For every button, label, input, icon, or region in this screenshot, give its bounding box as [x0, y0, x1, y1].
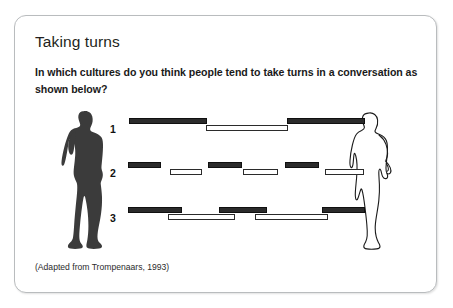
speech-bar-dark [285, 162, 319, 168]
speech-bar-light [168, 214, 235, 220]
row-1-label: 1 [110, 124, 116, 135]
content-card: Taking turns In which cultures do you th… [14, 15, 437, 293]
speech-bar-dark [219, 207, 267, 213]
speech-bar-light [325, 169, 364, 175]
turn-pattern-row-1: 1 [15, 116, 438, 140]
turn-pattern-row-3: 3 [15, 205, 438, 229]
slide-canvas: Taking turns In which cultures do you th… [0, 0, 453, 308]
speech-bar-dark [287, 118, 365, 124]
speech-bar-dark [129, 118, 207, 124]
row-2-label: 2 [110, 168, 116, 179]
silhouette-man-filled-icon [61, 109, 109, 253]
silhouette-person-outline-icon [349, 111, 397, 253]
source-attribution: (Adapted from Trompenaars, 1993) [35, 262, 169, 272]
speech-bar-light [255, 214, 328, 220]
speech-bar-dark [128, 162, 161, 168]
row-3-label: 3 [110, 213, 116, 224]
speech-bar-light [170, 169, 202, 175]
turn-pattern-row-2: 2 [15, 160, 438, 184]
speech-bar-light [206, 125, 288, 131]
question-text: In which cultures do you think people te… [35, 64, 427, 98]
turn-taking-diagram: 1 2 3 [15, 16, 438, 294]
page-title: Taking turns [35, 33, 120, 51]
speech-bar-dark [322, 207, 365, 213]
speech-bar-dark [128, 207, 182, 213]
speech-bar-light [243, 169, 278, 175]
speech-bar-dark [208, 162, 242, 168]
